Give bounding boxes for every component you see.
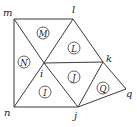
face-L: L — [68, 42, 80, 54]
face-label: N — [19, 58, 28, 68]
face-label: M — [38, 29, 48, 39]
face-Q: Q — [97, 82, 109, 94]
vertex-label-q: q — [126, 88, 132, 99]
vertex-label-j: j — [72, 110, 77, 121]
edge-l-i — [44, 19, 73, 63]
vertex-label-m: m — [3, 7, 12, 18]
face-label: I — [42, 88, 47, 98]
vertex-label-k: k — [106, 53, 112, 64]
vertex-label-i: i — [40, 68, 43, 79]
edge-i-k — [44, 62, 103, 63]
edge-m-i — [14, 19, 44, 63]
vertex-label-n: n — [4, 107, 10, 118]
edge-i-j — [44, 63, 78, 107]
face-label: L — [70, 44, 77, 54]
face-J: J — [68, 71, 80, 83]
face-I: I — [39, 86, 51, 98]
face-label: Q — [100, 84, 107, 94]
face-N: N — [18, 56, 30, 68]
mesh-diagram: MLNJIQ mlkinjq — [0, 0, 137, 127]
edge-l-k — [73, 19, 103, 62]
vertex-label-l: l — [72, 4, 75, 15]
face-M: M — [37, 27, 49, 39]
